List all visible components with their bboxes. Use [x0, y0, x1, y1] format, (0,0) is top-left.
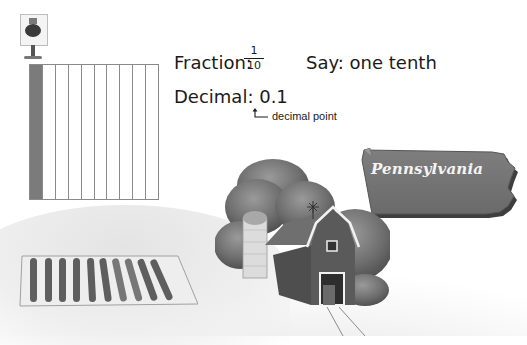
decimal-label: Decimal: 0.1 [174, 87, 288, 107]
fraction-denominator: 10 [244, 59, 264, 72]
crop-field-illustration [18, 252, 198, 312]
fraction-value: 1 10 [244, 45, 264, 72]
fraction-numerator: 1 [244, 45, 264, 59]
sign-base [24, 56, 42, 59]
grid-cell [133, 65, 146, 199]
grid-cell [107, 65, 120, 199]
tomato-icon [25, 24, 41, 37]
grid-cell [146, 65, 158, 199]
grid-cell [120, 65, 133, 199]
grid-cell-shaded [30, 65, 43, 199]
fraction-label: Fraction: [174, 53, 252, 73]
decimal-point-annotation: decimal point [272, 110, 337, 122]
tenths-grid [29, 64, 159, 200]
grid-cell [95, 65, 108, 199]
grid-cell [69, 65, 82, 199]
grid-cell [82, 65, 95, 199]
arrow-up-icon [252, 107, 268, 119]
say-label: Say: one tenth [306, 53, 437, 73]
grid-cell [56, 65, 69, 199]
tomato-sign-icon [20, 10, 46, 62]
grid-cell [43, 65, 56, 199]
barn-illustration [215, 145, 390, 336]
